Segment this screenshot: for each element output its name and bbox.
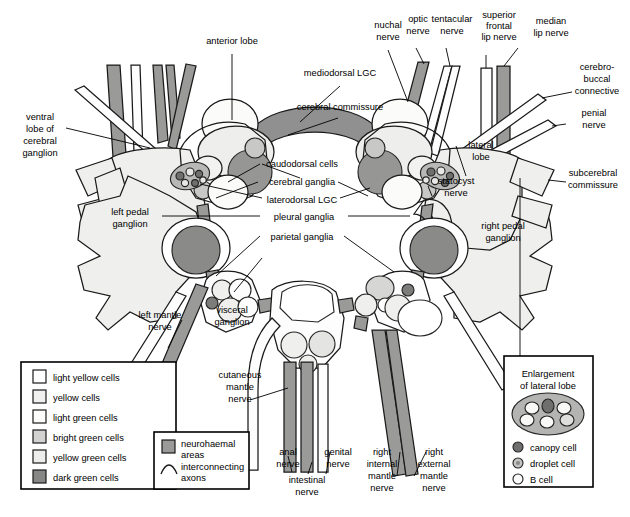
label-anal-nerve-l2: nerve [276,459,299,469]
label-cerebro-buccal-connective-l3: connective [575,86,619,96]
legend-axons-l2: axons [181,473,206,483]
legend-label-3: bright green cells [53,433,124,443]
label-optic-nerve-l1: optic [408,14,428,24]
label-intestinal-nerve-l2: nerve [295,487,318,497]
legend-neurohaemal-l1: neurohaemal [181,439,235,449]
label-superior-frontal-lip-nerve-l2: frontal [486,21,512,31]
legend-swatch-1 [33,390,46,403]
label-tentacular-nerve-l2: nerve [440,26,463,36]
legend-label-2: light green cells [53,413,118,423]
label-left-pedal-ganglion-l1: left pedal [111,207,149,217]
label-lateral-lobe-l2: lobe [472,152,490,162]
enlargement-cell-label-2: B cell [530,475,553,485]
label-laterodorsal-lgc: laterodorsal LGC [267,195,338,205]
enlargement-title-l1: Enlargement [522,369,575,379]
right-parietal-ganglion [354,271,442,336]
label-nuchal-nerve-l1: nuchal [374,20,401,30]
enlargement-canopy-cell-swatch [513,442,523,452]
label-lateral-lobe-l1: lateral [468,140,493,150]
label-median-lip-nerve-l2: lip nerve [533,28,568,38]
label-subcerebral-commissure-l1: subcerebral [569,168,618,178]
label-ventral-lobe-l3: cerebral [23,136,57,146]
label-right-external-mantle-nerve-l1: right [425,447,444,457]
label-right-internal-mantle-nerve-l1: right [373,447,392,457]
label-right-internal-mantle-nerve-l2: internal [367,459,398,469]
label-tentacular-nerve-l1: tentacular [432,14,473,24]
label-ventral-lobe-l4: ganglion [22,148,57,158]
label-penial-nerve-l2: nerve [582,120,605,130]
label-superior-frontal-lip-nerve-l1: superior [482,10,516,20]
diagram-page: .gfill { fill: #efefed; } .nvfill { fill… [0,0,630,517]
label-left-mantle-nerve-l1: left mantle [139,310,182,320]
legend-swatch-3 [33,430,46,443]
label-right-external-mantle-nerve-l2: external [417,459,450,469]
legend-swatch-2 [33,410,46,423]
label-anterior-lobe: anterior lobe [206,36,258,46]
label-intestinal-nerve-l1: intestinal [289,475,326,485]
label-left-pedal-ganglion-l2: ganglion [112,219,147,229]
label-cutaneous-mantle-nerve-l3: nerve [228,394,251,404]
label-ventral-lobe-l2: lobe of [26,124,54,134]
legend-swatch-0 [33,370,46,383]
label-cerebral-commissure: cerebral commissure [297,102,383,112]
legend-neurohaemal-l2: areas [181,450,205,460]
label-genital-nerve-l2: nerve [326,459,349,469]
label-pleural-ganglia: pleural ganglia [274,212,335,222]
label-visceral-ganglion-l2: ganglion [214,317,249,327]
label-visceral-ganglion-l1: visceral [216,305,248,315]
label-ventral-lobe-l1: ventral [26,112,54,122]
label-cerebro-buccal-connective-l2: buccal [584,74,611,84]
enlargement-b-cell-swatch [513,474,523,484]
label-nuchal-nerve-l2: nerve [376,32,399,42]
enlargement-cell-label-1: droplet cell [530,459,575,469]
legend-swatch-5 [33,470,46,483]
label-cutaneous-mantle-nerve-l2: mantle [226,382,254,392]
legend-label-1: yellow cells [53,393,100,403]
label-optic-nerve-l2: nerve [406,26,429,36]
label-cerebral-ganglia: cerebral ganglia [269,177,336,187]
label-genital-nerve-l1: genital [324,447,351,457]
label-statocyst-nerve-l2: nerve [444,188,467,198]
legend-axons-l1: interconnecting [181,462,244,472]
label-cutaneous-mantle-nerve-l1: cutaneous [219,370,262,380]
legend-label-5: dark green cells [53,473,119,483]
label-right-internal-mantle-nerve-l4: nerve [370,483,393,493]
label-statocyst-nerve-l1: statocyst [438,176,475,186]
label-left-mantle-nerve-l2: nerve [148,322,171,332]
label-right-internal-mantle-nerve-l3: mantle [368,471,396,481]
legend-box: light yellow cells yellow cells light gr… [21,362,249,489]
label-anal-nerve-l1: anal [279,447,297,457]
label-mediodorsal-lgc: mediodorsal LGC [304,68,377,78]
label-caudodorsal-cells: caudodorsal cells [266,159,338,169]
label-cerebro-buccal-connective-l1: cerebro- [580,62,615,72]
label-right-external-mantle-nerve-l4: nerve [422,483,445,493]
label-parietal-ganglia: parietal ganglia [270,232,334,242]
label-penial-nerve-l1: penial [582,108,607,118]
label-subcerebral-commissure-l2: commissure [568,180,618,190]
enlargement-box: Enlargement of lateral lobe canopy cell … [504,356,593,487]
nervous-system-diagram: .gfill { fill: #efefed; } .nvfill { fill… [0,0,630,517]
legend-label-4: yellow green cells [53,453,127,463]
label-median-lip-nerve-l1: median [536,16,567,26]
label-right-pedal-ganglion-l2: ganglion [485,233,520,243]
enlargement-title-l2: of lateral lobe [520,381,576,391]
legend-swatch-4 [33,450,46,463]
label-right-external-mantle-nerve-l3: mantle [420,471,448,481]
legend-neurohaemal-swatch [162,440,175,453]
enlargement-cell-label-0: canopy cell [530,443,577,453]
legend-label-0: light yellow cells [53,373,120,383]
label-superior-frontal-lip-nerve-l3: lip nerve [481,32,516,42]
label-right-pedal-ganglion-l1: right pedal [481,221,524,231]
pleural-ganglia [162,218,468,285]
visceral-ganglion [270,281,354,373]
